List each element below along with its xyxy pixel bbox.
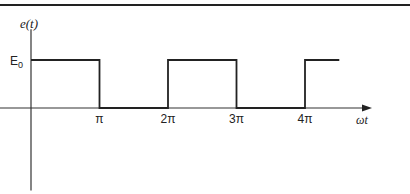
- y-axis-label: e(t): [20, 16, 38, 31]
- x-tick-label-3: 4π: [298, 112, 313, 126]
- square-wave-chart: e(t) ωt E0 π2π3π4π: [0, 0, 410, 194]
- x-tick-label-2: 3π: [229, 112, 244, 126]
- y-tick-label-0: E0: [10, 54, 23, 70]
- series-line-e-t: [31, 60, 339, 108]
- x-axis-arrow-icon: [362, 105, 372, 112]
- x-tick-label-1: 2π: [161, 112, 176, 126]
- x-axis-label: ωt: [356, 113, 368, 127]
- x-tick-label-0: π: [95, 112, 103, 126]
